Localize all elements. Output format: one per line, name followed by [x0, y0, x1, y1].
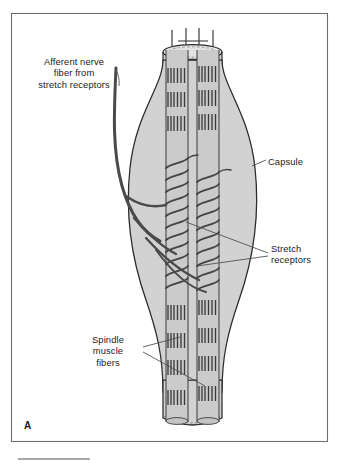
figure-root: Afferent nerve fiber from stretch recept…	[0, 0, 341, 467]
panel-letter-a: A	[24, 420, 31, 431]
label-stretch-receptors: Stretch receptors	[271, 243, 339, 266]
label-spindle-muscle-fibers: Spindle muscle fibers	[75, 334, 141, 368]
label-afferent-nerve-fiber: Afferent nerve fiber from stretch recept…	[26, 56, 122, 90]
label-capsule: Capsule	[268, 156, 334, 167]
